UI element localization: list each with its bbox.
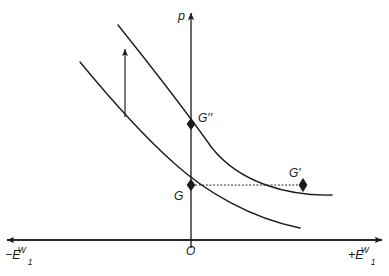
- origin-label: O: [186, 245, 195, 257]
- point-label-g-double-prime: G′′: [198, 112, 213, 124]
- x-axis-label-left-superscript: W: [18, 245, 26, 255]
- point-label-g-double-prime-marks: ′′: [207, 111, 213, 125]
- point-label-g-double-prime-base: G: [198, 111, 207, 125]
- point-label-g-prime-base: G: [289, 166, 298, 180]
- point-label-g-prime-marks: ′: [298, 166, 301, 180]
- point-label-g-base: G: [174, 189, 183, 203]
- point-label-g-prime: G′: [289, 167, 301, 179]
- point-label-g: G: [174, 190, 183, 202]
- curve-initial-schedule: [80, 62, 300, 228]
- excess-demand-diagram: p O −EW1 +EW1 G′′ G G′: [0, 0, 389, 276]
- x-axis-label-left-subscript: 1: [28, 257, 33, 267]
- x-axis-label-right-superscript: W: [361, 245, 369, 255]
- diagram-canvas: [0, 0, 389, 276]
- marker-point-g-double-prime: [187, 119, 195, 130]
- x-axis-label-right: +EW1: [348, 247, 376, 264]
- y-axis-label: p: [178, 10, 185, 23]
- marker-point-g: [187, 180, 195, 191]
- x-axis-label-left: −EW1: [5, 247, 33, 264]
- marker-point-g-prime: [299, 179, 307, 192]
- x-axis-label-right-subscript: 1: [371, 257, 376, 267]
